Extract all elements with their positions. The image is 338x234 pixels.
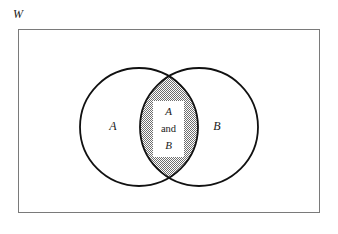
a-and-b-label-line-3: B bbox=[153, 137, 184, 154]
set-a-label: A bbox=[106, 119, 120, 134]
a-and-b-label: A and B bbox=[153, 101, 184, 157]
venn-diagram-figure: W A B A and B bbox=[0, 0, 338, 234]
set-b-label: B bbox=[210, 119, 224, 134]
a-and-b-label-line-2: and bbox=[153, 120, 184, 137]
a-and-b-label-line-1: A bbox=[153, 103, 184, 120]
